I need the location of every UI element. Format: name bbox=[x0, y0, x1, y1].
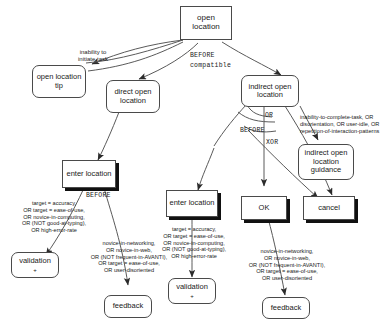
node-feedback-right[interactable]: feedback bbox=[262, 297, 310, 319]
condition-validation-left-line3: OR novice-in-computing, bbox=[8, 214, 100, 221]
node-ok-label: OK bbox=[257, 204, 272, 212]
edge-indirect bbox=[222, 42, 281, 75]
condition-feedback-mid-line1: novice-in-networking, bbox=[82, 240, 176, 247]
node-enter-location-mid[interactable]: enter location bbox=[166, 190, 218, 217]
edge-enter-left bbox=[98, 112, 119, 160]
diagram-canvas: open location open location tip direct o… bbox=[0, 0, 390, 326]
node-validation-left-plus: + bbox=[31, 267, 39, 273]
condition-indirect-trigger-line3: repetition-of-interaction-patterns bbox=[300, 128, 379, 135]
edge-enter-mid bbox=[198, 148, 214, 190]
node-feedback-mid[interactable]: feedback bbox=[104, 295, 152, 318]
node-indirect-open-location-label: indirect open location bbox=[242, 83, 298, 100]
node-direct-open-location-label: direct open location bbox=[107, 88, 159, 105]
condition-indirect-trigger-line1: inability-to-complete-task, OR bbox=[300, 114, 379, 121]
node-enter-location-left[interactable]: enter location bbox=[62, 160, 116, 188]
condition-inability-initiate: inability to initiate task bbox=[78, 49, 108, 64]
condition-validation-mid-line1: target = accuracy, bbox=[148, 226, 240, 233]
condition-feedback-mid-line3: OR (NOT frequent-in-AVANTI), bbox=[82, 254, 176, 261]
condition-feedback-mid-line4: OR target = ease-of-use, bbox=[82, 260, 176, 267]
node-enter-location-left-label: enter location bbox=[64, 170, 113, 178]
condition-feedback-mid-line5: OR user-disoriented bbox=[82, 267, 176, 274]
edge-indirect-left bbox=[214, 105, 246, 146]
condition-validation-left-line1: target = accuracy, bbox=[8, 200, 100, 207]
node-feedback-mid-label: feedback bbox=[111, 302, 145, 310]
node-validation-mid[interactable]: validation + bbox=[168, 278, 216, 304]
operator-before-top: BEFORE bbox=[190, 52, 215, 59]
node-enter-location-mid-label: enter location bbox=[167, 199, 216, 207]
condition-feedback-right: novice-in-networking, OR novice-in-web, … bbox=[238, 248, 336, 282]
condition-feedback-right-line1: novice-in-networking, bbox=[238, 248, 336, 255]
operator-or-mid: OR bbox=[265, 112, 273, 119]
condition-validation-left: target = accuracy, OR target = ease-of-u… bbox=[8, 200, 100, 234]
condition-inability-initiate-line2: initiate task bbox=[78, 56, 108, 63]
node-feedback-right-label: feedback bbox=[269, 304, 303, 312]
operator-before-left: BEFORE bbox=[86, 192, 111, 199]
node-ok[interactable]: OK bbox=[241, 196, 287, 220]
condition-indirect-trigger: inability-to-complete-task, OR disorient… bbox=[300, 114, 379, 134]
condition-validation-left-line2: OR target = ease-of-use, bbox=[8, 207, 100, 214]
node-cancel[interactable]: cancel bbox=[303, 196, 355, 220]
node-open-location[interactable]: open location bbox=[180, 6, 232, 40]
operator-before-mid: BEFORE bbox=[240, 127, 265, 134]
node-open-location-label: open location bbox=[181, 14, 231, 32]
condition-feedback-right-line2: OR novice-in-web, bbox=[238, 255, 336, 262]
node-validation-mid-plus: + bbox=[188, 293, 196, 299]
operator-xor-mid: XOR bbox=[266, 139, 278, 146]
condition-indirect-trigger-line2: disorientation, OR user-idle, OR bbox=[300, 121, 379, 128]
condition-validation-mid-line2: OR target = ease-of-use, bbox=[148, 233, 240, 240]
node-open-location-tip[interactable]: open location tip bbox=[32, 65, 86, 98]
condition-inability-initiate-line1: inability to bbox=[78, 49, 108, 56]
condition-validation-left-line5: OR high-error-rate bbox=[8, 227, 100, 234]
node-cancel-label: cancel bbox=[316, 204, 342, 212]
node-direct-open-location[interactable]: direct open location bbox=[106, 80, 160, 113]
node-validation-left[interactable]: validation + bbox=[11, 252, 59, 278]
node-open-location-tip-label: open location tip bbox=[33, 73, 85, 90]
condition-feedback-right-line5: OR user-disoriented bbox=[238, 275, 336, 282]
node-validation-left-label: validation bbox=[17, 257, 53, 265]
condition-feedback-mid: novice-in-networking, OR novice-in-web, … bbox=[82, 240, 176, 274]
condition-feedback-mid-line2: OR novice-in-web, bbox=[82, 247, 176, 254]
operator-compatible-top: compatible bbox=[190, 62, 231, 69]
node-indirect-open-location[interactable]: indirect open location bbox=[241, 75, 299, 107]
node-indirect-open-location-guidance[interactable]: indirect open location guidance bbox=[298, 144, 354, 180]
condition-validation-left-line4: OR (NOT good-at-typing), bbox=[8, 220, 100, 227]
condition-feedback-right-line4: OR target = ease-of-use, bbox=[238, 268, 336, 275]
condition-feedback-right-line3: OR (NOT frequent-in-AVANTI), bbox=[238, 262, 336, 269]
node-validation-mid-label: validation bbox=[174, 283, 210, 291]
node-indirect-open-location-guidance-label: indirect open location guidance bbox=[299, 149, 353, 174]
